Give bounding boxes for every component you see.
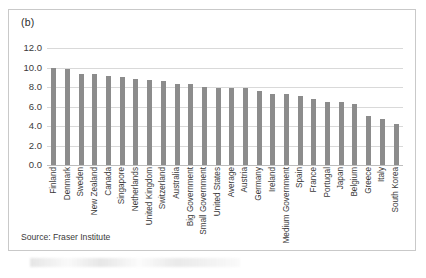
bar	[243, 88, 248, 165]
bar	[175, 84, 180, 165]
x-axis-tick-label: Australia	[173, 167, 181, 199]
bar	[270, 94, 275, 165]
x-axis-tick-label: Austria	[241, 167, 249, 192]
x-axis-tick-label: Big Government	[187, 167, 195, 226]
bar	[257, 91, 262, 165]
bar-slot	[129, 48, 143, 165]
x-axis-tick-label: Sweden	[77, 167, 85, 197]
x-axis-tick-label: Spain	[296, 167, 304, 188]
bar	[352, 104, 357, 165]
bar-slot	[157, 48, 171, 165]
x-axis-tick-label: Germany	[255, 167, 263, 201]
x-axis-tick-label: Small Government	[200, 167, 208, 235]
bar	[188, 84, 193, 165]
bar-slot	[252, 48, 266, 165]
y-axis-tick-label: 10.0	[24, 63, 43, 73]
bar	[366, 116, 371, 165]
bar	[298, 96, 303, 165]
bar-slot	[115, 48, 129, 165]
source-note: Source: Fraser Institute	[21, 232, 110, 242]
x-label-slot: United Kingdom	[143, 167, 157, 241]
y-axis-tick-label: 8.0	[29, 82, 42, 92]
x-axis-tick-label: Greece	[365, 167, 373, 194]
x-label-slot: Spain	[293, 167, 307, 241]
x-label-slot: Small Government	[198, 167, 212, 241]
bar-slot	[239, 48, 253, 165]
x-label-slot: Germany	[252, 167, 266, 241]
x-label-slot: Australia	[170, 167, 184, 241]
x-axis-tick-label: Finland	[50, 167, 58, 194]
bar	[380, 119, 385, 165]
x-label-slot: Singapore	[115, 167, 129, 241]
x-label-slot: Ireland	[266, 167, 280, 241]
bar-slot	[307, 48, 321, 165]
bar	[325, 102, 330, 165]
plot-area: 12.010.08.06.04.02.00.0	[47, 48, 403, 165]
bar-slot	[88, 48, 102, 165]
x-axis-tick-label: Switzerland	[159, 167, 167, 209]
bar-slot	[102, 48, 116, 165]
x-label-slot: Average	[225, 167, 239, 241]
x-label-slot: Denmark	[61, 167, 75, 241]
x-axis-tick-label: Medium Government	[282, 167, 290, 243]
bar	[133, 79, 138, 165]
x-label-slot: Greece	[362, 167, 376, 241]
bar-slot	[280, 48, 294, 165]
x-axis-tick-label: Denmark	[63, 167, 71, 200]
x-label-slot: Italy	[376, 167, 390, 241]
bar	[92, 74, 97, 165]
x-label-slot: Finland	[47, 167, 61, 241]
x-axis-tick-label: Portugal	[323, 167, 331, 198]
bar-slot	[184, 48, 198, 165]
bar-slot	[362, 48, 376, 165]
bar	[339, 102, 344, 165]
bar	[202, 87, 207, 165]
x-axis-tick-label: United Kingdom	[146, 167, 154, 225]
bar-slot	[211, 48, 225, 165]
x-axis-tick-label: Average	[228, 167, 236, 197]
bar-slot	[170, 48, 184, 165]
bar-slot	[47, 48, 61, 165]
bar-slot	[143, 48, 157, 165]
bar	[147, 80, 152, 165]
bar-slot	[348, 48, 362, 165]
x-label-slot: New Zealand	[88, 167, 102, 241]
y-axis-tick-label: 12.0	[24, 43, 43, 53]
x-label-slot: Japan	[334, 167, 348, 241]
bar	[79, 74, 84, 165]
bar-slot	[293, 48, 307, 165]
x-label-slot: Sweden	[74, 167, 88, 241]
y-axis-tick-label: 6.0	[29, 102, 42, 112]
panel-label: (b)	[21, 16, 34, 28]
x-axis-tick-label: Netherlands	[132, 167, 140, 211]
x-axis-tick-label: France	[310, 167, 318, 192]
bar	[106, 76, 111, 165]
x-label-slot: France	[307, 167, 321, 241]
bar	[216, 88, 221, 165]
x-label-slot: Big Government	[184, 167, 198, 241]
x-label-slot: Medium Government	[280, 167, 294, 241]
page-scan-artifact	[30, 258, 240, 267]
x-axis-tick-label: Japan	[337, 167, 345, 189]
x-axis-tick-label: Canada	[104, 167, 112, 196]
x-axis-tick-label: United States	[214, 167, 222, 216]
bar-slot	[61, 48, 75, 165]
x-label-slot: Austria	[239, 167, 253, 241]
bar	[284, 94, 289, 165]
x-axis-tick-label: South Korea	[392, 167, 400, 213]
x-label-slot: Belgium	[348, 167, 362, 241]
y-axis-tick-label: 0.0	[29, 160, 42, 170]
y-axis-tick-label: 4.0	[29, 121, 42, 131]
x-label-slot: Canada	[102, 167, 116, 241]
x-axis-tick-label: Singapore	[118, 167, 126, 204]
bar-slot	[225, 48, 239, 165]
bar-series	[47, 48, 403, 165]
x-label-slot: South Korea	[389, 167, 403, 241]
bar-slot	[321, 48, 335, 165]
bar	[120, 77, 125, 165]
bar-slot	[376, 48, 390, 165]
bar	[229, 88, 234, 165]
x-axis-tick-labels: FinlandDenmarkSwedenNew ZealandCanadaSin…	[47, 167, 403, 241]
x-axis-tick-label: Ireland	[269, 167, 277, 192]
chart-figure: (b) 12.010.08.06.04.02.00.0 FinlandDenma…	[8, 9, 416, 251]
